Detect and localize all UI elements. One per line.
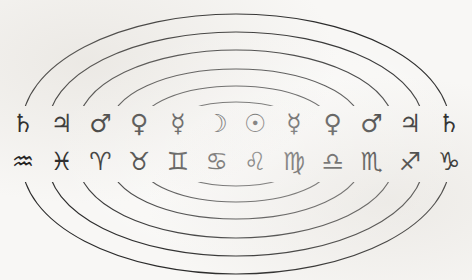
sagittarius-icon: ♐ <box>399 142 421 182</box>
mercury-icon: ☿ <box>170 104 185 144</box>
planet-symbol-row: ♄ ♃ ♂ ♀ ☿ ☽ ☉ ☿ ♀ ♂ ♃ ♄ <box>0 104 472 144</box>
planet-cell-jupiter-left: ♃ <box>47 104 77 144</box>
capricorn-icon: ♑ <box>438 142 460 182</box>
planet-cell-venus-right: ♀ <box>318 104 348 144</box>
planet-cell-saturn-left: ♄ <box>8 104 38 144</box>
zodiac-cell-aries: ♈ <box>85 142 115 182</box>
sun-icon: ☉ <box>244 104 266 144</box>
planet-cell-mars-right: ♂ <box>356 104 386 144</box>
pisces-icon: ♓ <box>51 142 73 182</box>
zodiac-cell-gemini: ♊ <box>163 142 193 182</box>
planet-cell-venus-left: ♀ <box>124 104 154 144</box>
mercury-icon: ☿ <box>286 104 301 144</box>
zodiac-cell-scorpio: ♏ <box>356 142 386 182</box>
zodiac-cell-aquarius: ♒ <box>8 142 38 182</box>
zodiac-cell-taurus: ♉ <box>124 142 154 182</box>
jupiter-icon: ♃ <box>399 104 421 144</box>
cancer-icon: ♋ <box>205 142 227 182</box>
zodiac-cell-pisces: ♓ <box>47 142 77 182</box>
zodiac-cell-cancer: ♋ <box>202 142 232 182</box>
libra-icon: ♎ <box>322 142 344 182</box>
zodiac-cell-sagittarius: ♐ <box>395 142 425 182</box>
mars-icon: ♂ <box>360 104 382 144</box>
zodiac-cell-virgo: ♍ <box>279 142 309 182</box>
zodiac-cell-leo: ♌ <box>240 142 270 182</box>
planet-cell-mercury-right: ☿ <box>279 104 309 144</box>
moon-icon: ☽ <box>205 104 227 144</box>
zodiac-cell-capricorn: ♑ <box>434 142 464 182</box>
planet-cell-mars-left: ♂ <box>85 104 115 144</box>
virgo-icon: ♍ <box>283 142 305 182</box>
taurus-icon: ♉ <box>128 142 150 182</box>
zodiac-symbol-row: ♒ ♓ ♈ ♉ ♊ ♋ ♌ ♍ ♎ ♏ ♐ ♑ <box>0 142 472 182</box>
leo-icon: ♌ <box>244 142 266 182</box>
aquarius-icon: ♒ <box>12 142 34 182</box>
mars-icon: ♂ <box>89 104 111 144</box>
planet-cell-jupiter-right: ♃ <box>395 104 425 144</box>
planet-cell-saturn-right: ♄ <box>434 104 464 144</box>
planet-cell-moon: ☽ <box>202 104 232 144</box>
venus-icon: ♀ <box>130 104 148 144</box>
planet-cell-mercury-left: ☿ <box>163 104 193 144</box>
zodiac-cell-libra: ♎ <box>318 142 348 182</box>
saturn-icon: ♄ <box>12 104 34 144</box>
venus-icon: ♀ <box>324 104 342 144</box>
saturn-icon: ♄ <box>438 104 460 144</box>
scorpio-icon: ♏ <box>360 142 382 182</box>
aries-icon: ♈ <box>89 142 111 182</box>
gemini-icon: ♊ <box>167 142 189 182</box>
planetary-spheres-diagram: ♄ ♃ ♂ ♀ ☿ ☽ ☉ ☿ ♀ ♂ ♃ ♄ ♒ ♓ ♈ ♉ ♊ ♋ ♌ ♍ … <box>0 0 472 280</box>
planet-cell-sun: ☉ <box>240 104 270 144</box>
jupiter-icon: ♃ <box>51 104 73 144</box>
